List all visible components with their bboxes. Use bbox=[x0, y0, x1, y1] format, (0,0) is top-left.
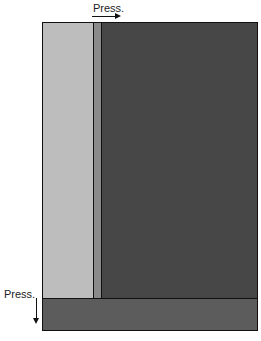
divider-column bbox=[94, 23, 102, 298]
dark-panel bbox=[102, 23, 257, 298]
right-arrow-icon bbox=[92, 16, 119, 17]
panel-frame bbox=[42, 22, 258, 331]
bottom-bar bbox=[43, 298, 257, 330]
down-arrow-icon bbox=[36, 298, 37, 322]
press-label-side: Press. bbox=[4, 288, 35, 300]
light-column bbox=[43, 23, 94, 298]
